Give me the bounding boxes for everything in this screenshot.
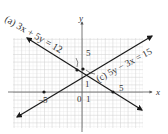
tick-label-x5: 5 [119,84,124,93]
tick-label-y5: 5 [86,49,91,58]
point-y-intercept-a [75,68,78,71]
tick-label-neg5: −5 [38,96,48,105]
point-x-intercept-c [42,90,45,93]
x-axis-label: x [156,88,160,97]
coordinate-graph [0,0,168,134]
y-axis-label: y [79,14,83,23]
tick-label-x1: 1 [86,95,91,104]
point-y-intercept-c [81,67,84,70]
tick-label-origin: 0 [77,95,82,104]
point-x-intercept-a [111,90,114,93]
tick-label-y1: 1 [85,80,90,89]
